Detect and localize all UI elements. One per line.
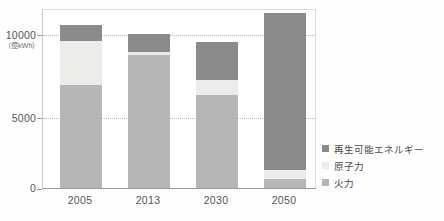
legend-label: 原子力 [334, 159, 364, 173]
bar-group-2005[interactable] [60, 25, 102, 188]
stacked-bar-chart: 10000 5000 0 （億kWh） [0, 0, 444, 221]
bar-segment-renewable [128, 34, 170, 52]
x-tick-label-2005: 2005 [50, 194, 110, 206]
bar-group-2030[interactable] [196, 42, 238, 188]
bar-group-2050[interactable] [264, 13, 306, 188]
y-axis: 10000 5000 0 [0, 0, 36, 221]
bar-segment-renewable [264, 13, 306, 170]
legend-item-thermal[interactable]: 火力 [322, 174, 442, 191]
legend: 再生可能エネルギー 原子力 火力 [322, 140, 442, 191]
bar-segment-nuclear [264, 170, 306, 179]
legend-item-nuclear[interactable]: 原子力 [322, 157, 442, 174]
legend-item-renewable[interactable]: 再生可能エネルギー [322, 140, 442, 157]
x-tick-label-2030: 2030 [186, 194, 246, 206]
legend-swatch-icon [322, 179, 329, 186]
bar-group-2013[interactable] [128, 34, 170, 188]
legend-swatch-icon [322, 162, 329, 169]
y-axis-unit-label: （億kWh） [4, 40, 44, 50]
legend-swatch-icon [322, 145, 329, 152]
y-tick-mark-0 [37, 189, 42, 190]
bar-segment-nuclear [60, 41, 102, 85]
x-tick-label-2013: 2013 [118, 194, 178, 206]
plot-area [42, 9, 316, 189]
bar-segment-nuclear [196, 80, 238, 95]
y-tick-label-5000: 5000 [12, 112, 36, 124]
y-tick-label-0: 0 [30, 182, 36, 194]
legend-label: 再生可能エネルギー [334, 142, 424, 156]
bar-segment-thermal [196, 95, 238, 188]
bar-segment-renewable [196, 42, 238, 80]
bar-segment-thermal [60, 85, 102, 188]
legend-label: 火力 [334, 176, 354, 190]
bar-segment-thermal [128, 55, 170, 188]
bar-segment-thermal [264, 179, 306, 188]
bar-segment-renewable [60, 25, 102, 41]
x-tick-label-2050: 2050 [254, 194, 314, 206]
